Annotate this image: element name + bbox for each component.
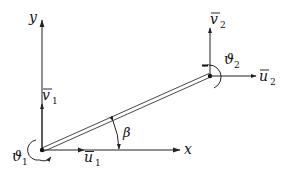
svg-text:1: 1: [95, 158, 101, 168]
svg-text:2: 2: [234, 60, 240, 70]
x-axis-label: x: [184, 141, 192, 157]
y-axis: y: [28, 9, 42, 150]
svg-text:2: 2: [270, 77, 276, 87]
svg-text:ϑ: ϑ: [12, 148, 22, 164]
angle-beta: β: [113, 121, 131, 149]
v1-label: v 1: [42, 87, 58, 106]
svg-text:1: 1: [52, 96, 58, 106]
theta2-label: ϑ 2: [224, 51, 240, 70]
node-2: v 2 u 2 ϑ 2: [202, 11, 276, 88]
y-axis-label: y: [28, 9, 38, 25]
u2-label: u 2: [259, 68, 276, 87]
v2-label: v 2: [210, 11, 226, 30]
x-axis: x: [42, 141, 192, 157]
theta1-label: ϑ 1: [12, 148, 28, 167]
u1-label: u 1: [84, 149, 101, 168]
svg-text:ϑ: ϑ: [224, 51, 234, 67]
beam-element-diagram: y x v 1 u 1 ϑ 1 β: [0, 0, 292, 176]
beta-label: β: [122, 125, 131, 140]
svg-text:1: 1: [22, 157, 28, 167]
svg-text:2: 2: [220, 20, 226, 30]
beta-arc-icon: [113, 121, 119, 149]
